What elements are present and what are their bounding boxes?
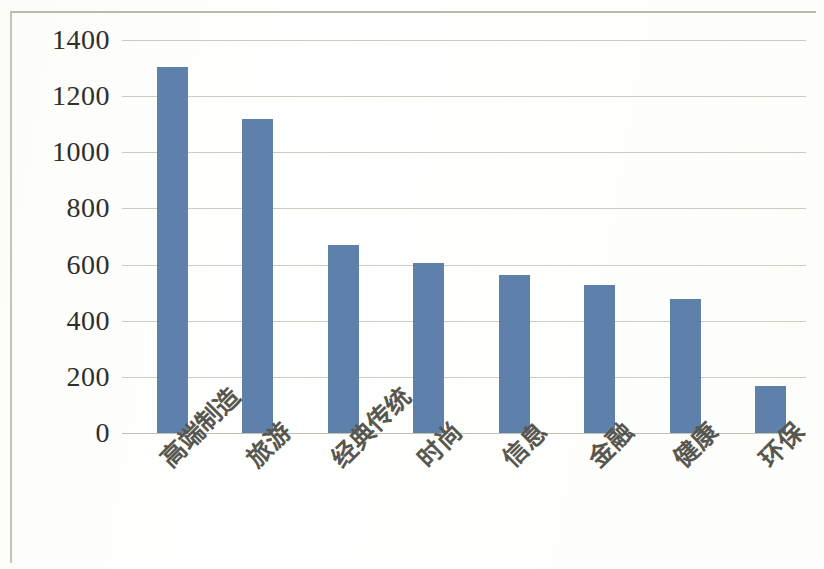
y-tick-label-400: 400 — [18, 307, 110, 335]
gridline-200 — [122, 377, 806, 378]
y-tick-label-600: 600 — [18, 251, 110, 279]
bar-chart-plot-area: 1400120010008006004002000 高端制造旅游经典传统时尚信息… — [0, 0, 824, 569]
gridline-1200 — [122, 96, 806, 97]
gridline-600 — [122, 265, 806, 266]
gridline-1000 — [122, 152, 806, 153]
bar-6[interactable] — [584, 285, 615, 433]
bar-3[interactable] — [328, 245, 359, 433]
y-tick-label-0: 0 — [18, 419, 110, 447]
chart-page: 1400120010008006004002000 高端制造旅游经典传统时尚信息… — [0, 0, 824, 569]
gridline-800 — [122, 208, 806, 209]
bar-2[interactable] — [242, 119, 273, 433]
y-tick-label-1200: 1200 — [18, 82, 110, 110]
y-tick-label-200: 200 — [18, 363, 110, 391]
bar-1[interactable] — [157, 67, 188, 433]
y-tick-label-800: 800 — [18, 194, 110, 222]
gridline-400 — [122, 321, 806, 322]
y-tick-label-1400: 1400 — [18, 26, 110, 54]
y-tick-label-1000: 1000 — [18, 138, 110, 166]
bar-4[interactable] — [413, 263, 444, 433]
bar-7[interactable] — [670, 299, 701, 433]
bar-5[interactable] — [499, 275, 530, 433]
gridline-1400 — [122, 40, 806, 41]
